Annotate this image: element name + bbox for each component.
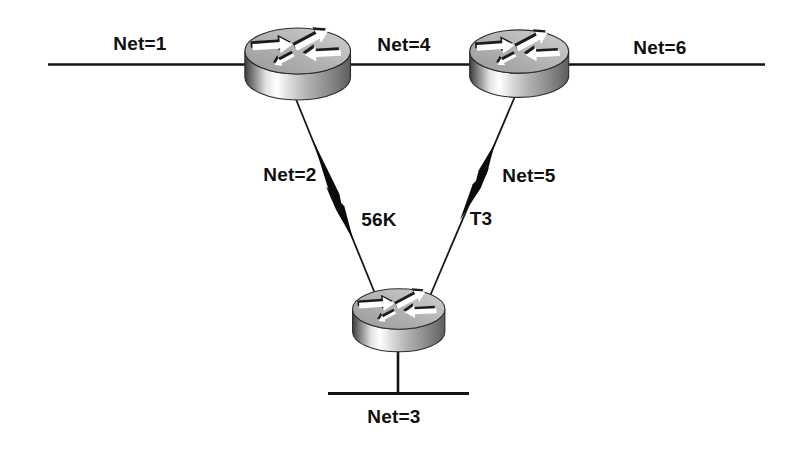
label-speed-56k: 56K [361,210,396,229]
label-net5: Net=5 [502,166,555,185]
router-top-left [245,22,351,100]
label-net4: Net=4 [377,35,430,54]
label-net3: Net=3 [367,407,420,426]
lightning-bolt-net2 [313,140,353,240]
label-net1: Net=1 [113,34,166,53]
label-net2: Net=2 [263,165,316,184]
network-diagram: Net=1 Net=4 Net=6 Net=2 56K Net=5 T3 Net… [0,0,807,454]
router-top-right [470,24,569,97]
topology-svg [0,0,807,454]
label-net6: Net=6 [633,38,686,57]
label-speed-t3: T3 [470,209,493,228]
